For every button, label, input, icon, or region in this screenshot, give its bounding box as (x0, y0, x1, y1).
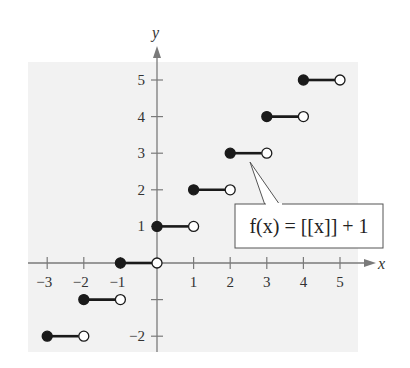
open-endpoint-icon (298, 112, 308, 122)
y-tick-label: 4 (138, 109, 146, 125)
closed-endpoint-icon (79, 295, 89, 305)
y-axis-label: y (150, 24, 160, 42)
open-endpoint-icon (335, 75, 345, 85)
open-endpoint-icon (152, 258, 162, 268)
y-tick-label: 5 (138, 72, 146, 88)
x-tick-label: 5 (336, 274, 344, 290)
callout-label: f(x) = [[x]] + 1 (249, 215, 368, 238)
closed-endpoint-icon (152, 221, 162, 231)
x-tick-label: −1 (109, 274, 125, 290)
step-function-chart: −3−2−112345−212345 f(x) = [[x]] + 1 x y (0, 0, 410, 368)
x-axis-label: x (377, 255, 385, 272)
closed-endpoint-icon (262, 112, 272, 122)
x-tick-label: −2 (73, 274, 89, 290)
open-endpoint-icon (262, 148, 272, 158)
x-tick-label: 3 (263, 274, 271, 290)
y-tick-label: 1 (138, 218, 146, 234)
y-axis-arrow-icon (153, 46, 161, 58)
x-tick-label: 4 (300, 274, 308, 290)
y-tick-label: −2 (129, 328, 145, 344)
closed-endpoint-icon (298, 75, 308, 85)
open-endpoint-icon (225, 185, 235, 195)
y-tick-label: 2 (138, 182, 146, 198)
y-tick-label: 3 (138, 145, 146, 161)
x-tick-label: −3 (36, 274, 52, 290)
open-endpoint-icon (79, 331, 89, 341)
closed-endpoint-icon (189, 185, 199, 195)
x-tick-label: 2 (226, 274, 234, 290)
closed-endpoint-icon (225, 148, 235, 158)
x-tick-label: 1 (190, 274, 198, 290)
open-endpoint-icon (115, 295, 125, 305)
open-endpoint-icon (189, 221, 199, 231)
closed-endpoint-icon (115, 258, 125, 268)
x-axis-arrow-icon (364, 259, 376, 267)
closed-endpoint-icon (42, 331, 52, 341)
